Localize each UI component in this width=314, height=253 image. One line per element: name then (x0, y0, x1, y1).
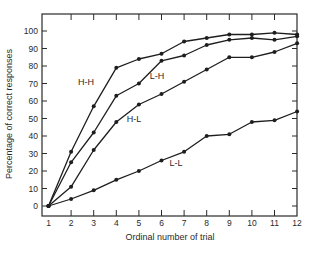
series-labels: H-HL-HH-LL-L (78, 71, 183, 168)
data-point (69, 197, 73, 201)
data-point (137, 169, 141, 173)
data-point (205, 68, 209, 72)
data-point (182, 80, 186, 84)
line-chart: 0102030405060708090100 123456789101112 H… (0, 0, 314, 253)
data-point (182, 40, 186, 44)
data-point (137, 82, 141, 86)
data-point (92, 104, 96, 108)
data-point (273, 118, 277, 122)
y-tick-label: 100 (24, 26, 38, 36)
series-h-h (47, 31, 300, 208)
plot-frame (42, 14, 297, 216)
data-point (92, 131, 96, 135)
y-tick-label: 20 (29, 166, 39, 176)
y-tick-label: 0 (33, 201, 38, 211)
data-point (92, 188, 96, 192)
data-point (182, 54, 186, 58)
data-point (182, 150, 186, 154)
data-point (69, 160, 73, 164)
data-point (69, 185, 73, 189)
x-tick-label: 6 (159, 218, 164, 228)
y-tick-label: 30 (29, 149, 39, 159)
x-axis-label: Ordinal number of trial (125, 232, 214, 242)
y-tick-label: 70 (29, 79, 39, 89)
series-label-h-l: H-L (127, 114, 142, 124)
data-point (227, 33, 231, 37)
data-point (227, 38, 231, 42)
data-point (273, 50, 277, 54)
data-point (295, 41, 299, 45)
data-point (137, 57, 141, 61)
data-point (92, 148, 96, 152)
series-line (49, 43, 298, 206)
x-tick-label: 9 (227, 218, 232, 228)
x-tick-label: 4 (114, 218, 119, 228)
data-point (227, 55, 231, 59)
data-point (160, 159, 164, 163)
x-tick-label: 1 (46, 218, 51, 228)
x-tick-label: 12 (292, 218, 302, 228)
data-point (137, 103, 141, 107)
series-label-h-h: H-H (78, 77, 94, 87)
data-point (250, 120, 254, 124)
data-point (250, 33, 254, 37)
x-tick-label: 7 (182, 218, 187, 228)
data-point (160, 92, 164, 96)
data-point (69, 150, 73, 154)
y-tick-label: 90 (29, 44, 39, 54)
data-point (114, 66, 118, 70)
data-point (205, 134, 209, 138)
y-axis-label: Percentage of correct responses (4, 48, 14, 179)
y-tick-label: 40 (29, 131, 39, 141)
data-point (273, 31, 277, 35)
data-point (114, 120, 118, 124)
data-point (273, 38, 277, 42)
series-label-l-h: L-H (150, 71, 165, 81)
plot-border (42, 14, 297, 216)
y-tick-label: 80 (29, 61, 39, 71)
data-point (295, 34, 299, 38)
data-point (205, 43, 209, 47)
series-label-l-l: L-L (169, 158, 182, 168)
data-point (227, 132, 231, 136)
data-point (160, 52, 164, 56)
x-tick-label: 10 (247, 218, 257, 228)
data-point (160, 59, 164, 63)
data-point (114, 178, 118, 182)
x-tick-label: 5 (137, 218, 142, 228)
x-tick-label: 3 (91, 218, 96, 228)
data-point (114, 94, 118, 98)
y-tick-label: 10 (29, 184, 39, 194)
data-point (47, 204, 51, 208)
x-tick-label: 8 (204, 218, 209, 228)
series-lines (47, 31, 300, 208)
y-tick-label: 60 (29, 96, 39, 106)
data-point (295, 110, 299, 114)
x-tick-label: 2 (69, 218, 74, 228)
x-tick-label: 11 (270, 218, 279, 228)
data-point (250, 36, 254, 40)
data-point (250, 55, 254, 59)
y-tick-label: 50 (29, 114, 39, 124)
data-point (205, 36, 209, 40)
